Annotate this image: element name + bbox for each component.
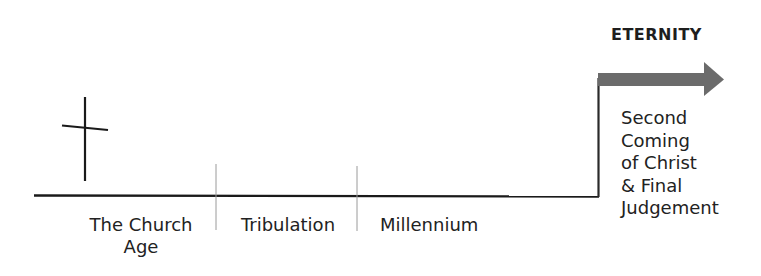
event-label-second-coming: Second Coming of Christ & Final Judgemen…: [621, 107, 719, 220]
event-label-line: & Final: [621, 175, 719, 198]
period-label-line: The Church: [76, 214, 206, 236]
event-label-line: of Christ: [621, 152, 719, 175]
cross-icon: [62, 97, 108, 181]
timeline-axis: [34, 196, 599, 197]
period-label-line: Age: [76, 236, 206, 258]
arrow-right-icon: [598, 62, 724, 96]
period-label-tribulation: Tribulation: [226, 214, 350, 236]
eternity-title: ETERNITY: [611, 25, 702, 44]
event-label-line: Second: [621, 107, 719, 130]
event-label-line: Coming: [621, 130, 719, 153]
period-label-millennium: Millennium: [364, 214, 496, 236]
period-label-church-age: The Church Age: [76, 214, 206, 258]
event-label-line: Judgement: [621, 197, 719, 220]
